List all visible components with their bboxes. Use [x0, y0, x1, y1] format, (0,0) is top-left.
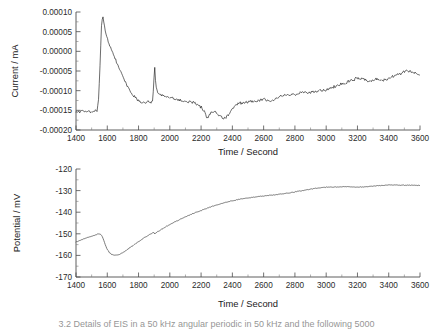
svg-text:2600: 2600: [255, 134, 274, 143]
svg-text:2800: 2800: [286, 134, 305, 143]
chart-svg-potential: 1400160018002000220024002600280030003200…: [0, 155, 433, 315]
svg-text:-160: -160: [56, 251, 73, 260]
svg-text:2600: 2600: [255, 281, 274, 290]
chart-panel-current: 1400160018002000220024002600280030003200…: [0, 0, 433, 160]
svg-text:3000: 3000: [317, 281, 336, 290]
svg-text:-120: -120: [56, 165, 73, 174]
chart-svg-current: 1400160018002000220024002600280030003200…: [0, 0, 433, 160]
svg-text:3200: 3200: [348, 281, 367, 290]
svg-text:Potential / mV: Potential / mV: [11, 193, 22, 252]
svg-text:3400: 3400: [380, 281, 399, 290]
svg-text:1600: 1600: [98, 281, 117, 290]
svg-text:2000: 2000: [161, 281, 180, 290]
svg-text:-150: -150: [56, 230, 73, 239]
svg-text:-0.00020: -0.00020: [40, 126, 73, 135]
chart-panel-potential: 1400160018002000220024002600280030003200…: [0, 155, 433, 315]
figure-caption-text: 3.2 Details of EIS in a 50 kHz angular p…: [0, 319, 433, 330]
svg-text:Time / Second: Time / Second: [218, 298, 278, 309]
svg-text:-130: -130: [56, 187, 73, 196]
svg-text:2400: 2400: [223, 281, 242, 290]
svg-text:-170: -170: [56, 273, 73, 282]
svg-text:2200: 2200: [192, 134, 211, 143]
svg-text:2800: 2800: [286, 281, 305, 290]
svg-text:1800: 1800: [129, 281, 148, 290]
svg-text:Current / mA: Current / mA: [9, 44, 20, 98]
svg-text:3200: 3200: [348, 134, 367, 143]
svg-text:0.00005: 0.00005: [42, 28, 72, 37]
svg-text:2200: 2200: [192, 281, 211, 290]
svg-text:3600: 3600: [411, 134, 430, 143]
figure-caption: 3.2 Details of EIS in a 50 kHz angular p…: [0, 319, 433, 331]
svg-text:-140: -140: [56, 208, 73, 217]
svg-text:3400: 3400: [380, 134, 399, 143]
figure-container: 1400160018002000220024002600280030003200…: [0, 0, 433, 331]
svg-text:3000: 3000: [317, 134, 336, 143]
svg-text:-0.00015: -0.00015: [40, 106, 73, 115]
svg-text:-0.00005: -0.00005: [40, 67, 73, 76]
svg-text:1800: 1800: [129, 134, 148, 143]
svg-text:3600: 3600: [411, 281, 430, 290]
svg-text:-0.00010: -0.00010: [40, 87, 73, 96]
svg-text:2000: 2000: [161, 134, 180, 143]
svg-text:1600: 1600: [98, 134, 117, 143]
svg-text:2400: 2400: [223, 134, 242, 143]
svg-text:0.00000: 0.00000: [42, 47, 72, 56]
svg-text:0.00010: 0.00010: [42, 8, 72, 17]
